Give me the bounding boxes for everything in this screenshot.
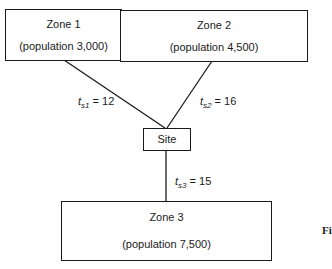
zone-2-name: Zone 2: [121, 19, 307, 31]
zone-3-box: Zone 3 (population 7,500): [61, 201, 272, 261]
zone-3-population: (population 7,500): [62, 238, 271, 250]
zone-1-population: (population 3,000): [6, 40, 121, 52]
zone-1-box: Zone 1 (population 3,000): [5, 9, 122, 61]
figure-caption-fragment: Fi: [322, 224, 332, 236]
site-box: Site: [143, 128, 191, 151]
zone-2-box: Zone 2 (population 4,500): [120, 10, 308, 62]
edge-label-ts3: ts3 = 15: [175, 175, 211, 190]
zone-3-name: Zone 3: [62, 211, 271, 223]
edge-label-ts2: ts2 = 16: [200, 95, 236, 110]
zone-1-name: Zone 1: [6, 18, 121, 30]
zone-2-population: (population 4,500): [121, 41, 307, 53]
site-label: Site: [144, 133, 190, 145]
edge-label-ts1: ts1 = 12: [78, 95, 114, 110]
